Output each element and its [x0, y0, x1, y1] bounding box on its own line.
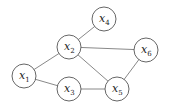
node-x6: x6 [134, 38, 158, 62]
node-x3: x3 [57, 77, 81, 101]
node-x5: x5 [105, 77, 129, 101]
node-x1: x1 [12, 64, 36, 88]
nodes: x1x2x3x4x5x6 [12, 7, 158, 101]
node-x2: x2 [57, 35, 81, 59]
graph-diagram: x1x2x3x4x5x6 [0, 0, 169, 106]
node-x4: x4 [92, 7, 116, 31]
edges [24, 19, 146, 89]
